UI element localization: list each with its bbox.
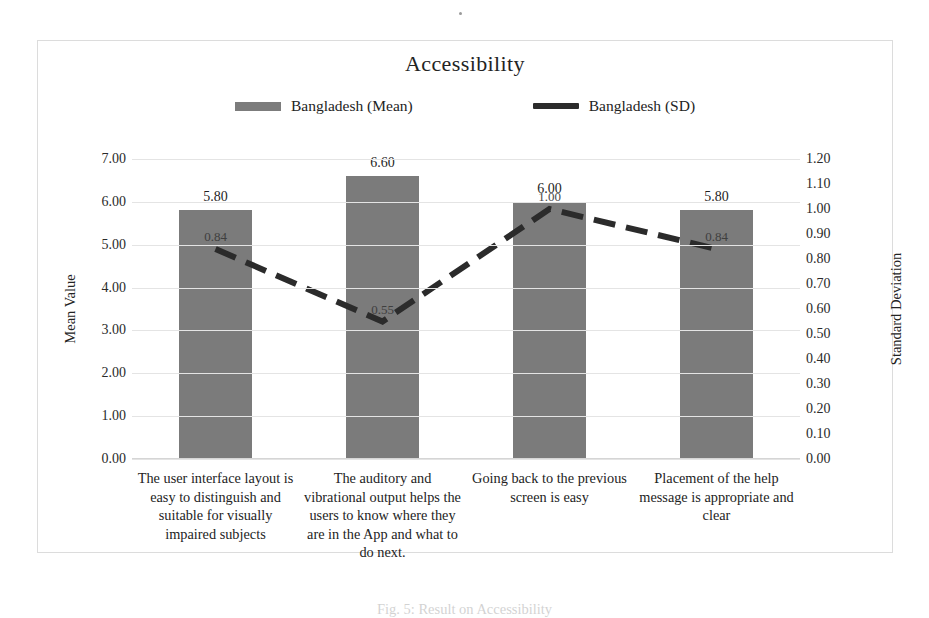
sd-line[interactable] — [216, 209, 717, 322]
y-axis-left-tick: 3.00 — [74, 322, 126, 338]
y-axis-left-tick: 7.00 — [74, 151, 126, 167]
gridline — [132, 159, 800, 160]
y-axis-right-ticks: 0.000.100.200.300.400.500.600.700.800.90… — [806, 159, 862, 459]
legend-item-sd[interactable]: Bangladesh (SD) — [533, 97, 695, 115]
plot-area: Mean Value Standard Deviation 0.001.002.… — [132, 159, 800, 459]
y-axis-left-tick: 2.00 — [74, 365, 126, 381]
sd-value-label: 0.55 — [371, 302, 394, 318]
y-axis-left-tick: 4.00 — [74, 280, 126, 296]
figure-caption: Fig. 5: Result on Accessibility — [0, 601, 929, 618]
page-speck — [459, 12, 462, 15]
gridline — [132, 416, 800, 417]
y-axis-left-tick: 5.00 — [74, 237, 126, 253]
bar-swatch-icon — [235, 102, 281, 111]
gridline — [132, 245, 800, 246]
sd-value-label: 1.00 — [538, 189, 561, 205]
y-axis-right-tick: 0.70 — [806, 276, 862, 292]
y-axis-right-tick: 0.00 — [806, 451, 862, 467]
y-axis-right-tick: 0.50 — [806, 326, 862, 342]
gridline — [132, 373, 800, 374]
chart-figure: Accessibility Bangladesh (Mean) Banglade… — [37, 40, 893, 553]
y-axis-right-tick: 0.60 — [806, 301, 862, 317]
x-axis-category-label: Placement of the help message is appropr… — [633, 469, 800, 562]
legend-item-mean[interactable]: Bangladesh (Mean) — [235, 97, 413, 115]
x-axis-category-label: Going back to the previous screen is eas… — [466, 469, 633, 562]
chart-title: Accessibility — [38, 51, 892, 77]
legend-label-mean: Bangladesh (Mean) — [291, 97, 413, 115]
legend-label-sd: Bangladesh (SD) — [589, 97, 695, 115]
y-axis-left-tick: 0.00 — [74, 451, 126, 467]
gridline — [132, 330, 800, 331]
sd-value-label: 0.84 — [204, 229, 227, 245]
y-axis-right-tick: 1.00 — [806, 201, 862, 217]
gridline — [132, 459, 800, 460]
y-axis-right-tick: 1.10 — [806, 176, 862, 192]
sd-value-label: 0.84 — [705, 229, 728, 245]
chart-legend: Bangladesh (Mean) Bangladesh (SD) — [38, 97, 892, 115]
y-axis-right-tick: 0.90 — [806, 226, 862, 242]
y-axis-right-tick: 0.10 — [806, 426, 862, 442]
y-axis-right-tick: 0.40 — [806, 351, 862, 367]
y-axis-left-tick: 1.00 — [74, 408, 126, 424]
sd-line-series — [132, 159, 800, 459]
y-axis-left-ticks: 0.001.002.003.004.005.006.007.00 — [74, 159, 126, 459]
x-axis-category-labels: The user interface layout is easy to dis… — [132, 469, 800, 562]
x-axis-category-label: The auditory and vibrational output help… — [299, 469, 466, 562]
y-axis-right-tick: 0.30 — [806, 376, 862, 392]
y-axis-right-tick: 1.20 — [806, 151, 862, 167]
y-axis-right-tick: 0.80 — [806, 251, 862, 267]
gridline — [132, 288, 800, 289]
line-swatch-icon — [533, 103, 579, 109]
x-axis-category-label: The user interface layout is easy to dis… — [132, 469, 299, 562]
y-axis-right-tick: 0.20 — [806, 401, 862, 417]
gridline — [132, 202, 800, 203]
y-axis-right-title: Standard Deviation — [887, 253, 904, 365]
y-axis-left-tick: 6.00 — [74, 194, 126, 210]
